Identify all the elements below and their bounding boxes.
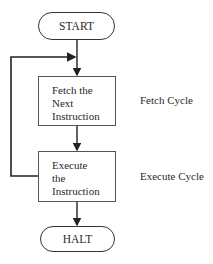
- halt-terminal: HALT: [40, 226, 115, 252]
- fetch-process-box: Fetch the Next Instruction: [38, 76, 116, 126]
- fetch-line-1: Fetch the: [52, 84, 115, 97]
- execute-cycle-label: Execute Cycle: [140, 170, 204, 182]
- execute-line-1: Execute: [52, 159, 115, 172]
- fetch-cycle-label: Fetch Cycle: [140, 94, 193, 106]
- execute-process-box: Execute the Instruction: [38, 151, 116, 202]
- execute-line-3: Instruction: [52, 185, 115, 198]
- start-label: START: [59, 20, 94, 32]
- connector-lines: [0, 0, 213, 264]
- execute-line-2: the: [52, 172, 115, 185]
- fetch-line-2: Next: [52, 97, 115, 110]
- fetch-line-3: Instruction: [52, 110, 115, 123]
- start-terminal: START: [38, 12, 115, 40]
- halt-label: HALT: [63, 233, 93, 245]
